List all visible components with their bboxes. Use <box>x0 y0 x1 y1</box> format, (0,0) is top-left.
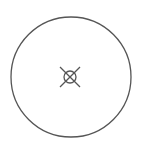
crossed-circle-icon <box>60 67 80 87</box>
outer-circle <box>11 17 131 137</box>
diagram-canvas <box>0 0 142 151</box>
